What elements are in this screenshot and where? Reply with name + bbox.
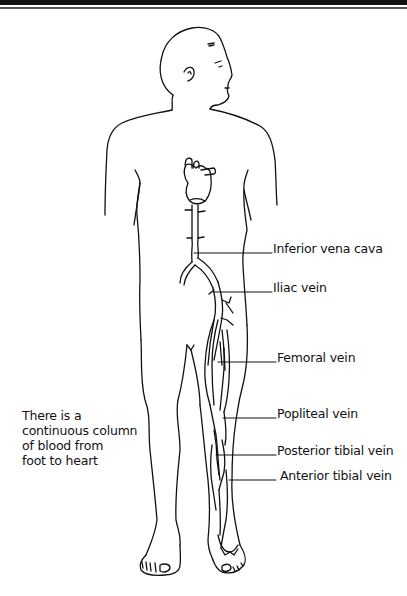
torso-outline [105, 109, 277, 340]
right-foot-outline [213, 545, 245, 573]
ear-icon [184, 67, 194, 81]
note-line: There is a [22, 408, 142, 423]
left-foot-outline [140, 545, 180, 575]
label-posterior-tibial-vein: Posterior tibial vein [277, 445, 393, 458]
label-anterior-tibial-vein: Anterior tibial vein [280, 470, 392, 483]
leader-lines [194, 253, 276, 480]
legs-outline [141, 325, 248, 560]
label-inferior-vena-cava: Inferior vena cava [273, 243, 383, 256]
head-outline [160, 27, 232, 110]
note-line: continuous column [22, 423, 142, 438]
human-figure-diagram [0, 0, 407, 596]
label-iliac-vein: Iliac vein [273, 282, 327, 295]
inferior-vena-cava-vessel [180, 205, 218, 288]
label-femoral-vein: Femoral vein [277, 352, 355, 365]
note-line: of blood from [22, 438, 142, 453]
label-popliteal-vein: Popliteal vein [277, 408, 358, 421]
side-note: There is a continuous column of blood fr… [22, 408, 142, 468]
note-line: foot to heart [22, 453, 142, 468]
heart-icon [184, 158, 215, 204]
